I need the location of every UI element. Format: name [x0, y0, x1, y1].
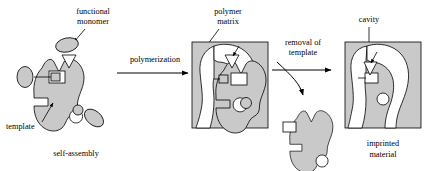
stage-removed-template [283, 111, 333, 171]
monomer-right-ellipse [81, 106, 107, 131]
stage-imprinted-material: cavity imprinted material [345, 15, 421, 159]
embedded-square-socket [231, 73, 247, 85]
functional-monomer-label-line2: monomer [77, 17, 109, 26]
polymer-matrix-label-line2: matrix [217, 17, 240, 26]
stage-self-assembly: functional monomer template self-assembl… [6, 7, 111, 158]
monomer-left-square [51, 73, 60, 81]
free-template-round-notch [316, 155, 328, 167]
binding-site-circle [377, 93, 389, 105]
removal-label-line2: template [289, 48, 318, 57]
removal-curved-arrow [277, 62, 303, 95]
monomer-left-ellipse [17, 67, 33, 88]
template-label: template [6, 122, 35, 131]
monomer-top-ellipse [54, 36, 79, 54]
figure-canvas: functional monomer template self-assembl… [0, 0, 429, 171]
binding-site-square [365, 73, 378, 83]
functional-monomer-label-line1: functional [76, 7, 110, 16]
free-template-square-notch [283, 122, 296, 132]
polymer-matrix-label-line1: polymer [214, 7, 242, 16]
removal-arrow-group: removal of template [272, 38, 331, 95]
monomer-right-circle [73, 105, 83, 115]
embedded-monomer-square [219, 75, 228, 83]
self-assembly-caption: self-assembly [53, 149, 99, 158]
removal-label-line1: removal of [285, 38, 321, 47]
embedded-monomer-circle [241, 98, 252, 109]
stage-polymer-matrix: polymer matrix [192, 7, 268, 133]
cavity-label: cavity [359, 15, 380, 24]
imprinted-caption-line1: imprinted [367, 139, 400, 148]
imprinted-caption-line2: material [369, 150, 397, 159]
polymerization-label: polymerization [130, 55, 181, 64]
polymerization-arrow-group: polymerization [117, 55, 188, 73]
